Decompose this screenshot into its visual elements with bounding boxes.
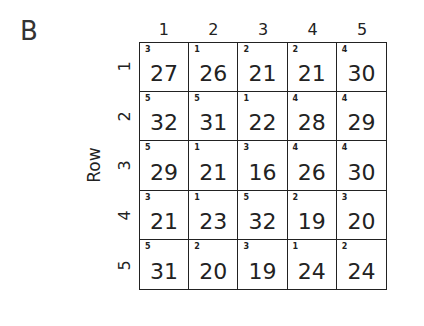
cell-value: 31	[189, 110, 237, 135]
grid-cell: 430	[337, 43, 386, 92]
grid-cell: 320	[337, 191, 386, 240]
grid-cell: 220	[189, 240, 238, 289]
cell-value: 21	[189, 160, 237, 185]
grid-cell: 531	[140, 240, 189, 289]
cell-value: 28	[288, 110, 336, 135]
grid-cell: 532	[238, 191, 287, 240]
cell-value: 32	[140, 110, 188, 135]
cell-value: 32	[238, 209, 286, 234]
cell-value: 30	[337, 160, 386, 185]
cell-small-label: 4	[342, 45, 348, 54]
row-header: 3	[112, 141, 136, 191]
cell-value: 31	[140, 259, 188, 284]
cell-value: 30	[337, 61, 386, 86]
row-header: 5	[112, 240, 136, 290]
cell-value: 24	[337, 259, 386, 284]
row-header: 1	[112, 42, 136, 92]
cell-small-label: 5	[243, 193, 249, 202]
grid-cell: 426	[288, 141, 337, 190]
grid-cell: 124	[288, 240, 337, 289]
cell-small-label: 2	[293, 193, 299, 202]
cell-value: 20	[337, 209, 386, 234]
cell-small-label: 1	[293, 242, 299, 251]
cell-value: 21	[140, 209, 188, 234]
cell-small-label: 3	[145, 45, 151, 54]
cell-small-label: 5	[145, 94, 151, 103]
cell-value: 22	[238, 110, 286, 135]
grid-cell: 428	[288, 92, 337, 141]
row-header-text: 1	[115, 62, 134, 72]
cell-small-label: 5	[145, 143, 151, 152]
cell-value: 21	[288, 61, 336, 86]
grid-cell: 531	[189, 92, 238, 141]
row-header: 2	[112, 92, 136, 142]
grid-cell: 221	[238, 43, 287, 92]
cell-small-label: 1	[194, 143, 200, 152]
cell-small-label: 2	[194, 242, 200, 251]
grid-cell: 219	[288, 191, 337, 240]
column-header: 2	[189, 20, 239, 39]
cell-value: 16	[238, 160, 286, 185]
cell-small-label: 5	[145, 242, 151, 251]
row-header-text: 2	[115, 111, 134, 121]
cell-small-label: 4	[342, 143, 348, 152]
cell-value: 29	[337, 110, 386, 135]
cell-small-label: 2	[243, 45, 249, 54]
cell-small-label: 1	[194, 193, 200, 202]
grid-cell: 532	[140, 92, 189, 141]
cell-small-label: 2	[293, 45, 299, 54]
cell-small-label: 3	[342, 193, 348, 202]
cell-value: 24	[288, 259, 336, 284]
cell-value: 29	[140, 160, 188, 185]
grid-cell: 430	[337, 141, 386, 190]
cell-value: 19	[238, 259, 286, 284]
cell-small-label: 3	[145, 193, 151, 202]
cell-value: 21	[238, 61, 286, 86]
row-header-text: 4	[115, 211, 134, 221]
cell-value: 27	[140, 61, 188, 86]
cell-value: 26	[288, 160, 336, 185]
cell-value: 20	[189, 259, 237, 284]
cell-small-label: 3	[243, 242, 249, 251]
cell-small-label: 3	[243, 143, 249, 152]
row-header-text: 5	[115, 260, 134, 270]
cell-small-label: 1	[194, 45, 200, 54]
grid-cell: 316	[238, 141, 287, 190]
cell-small-label: 2	[342, 242, 348, 251]
cell-small-label: 1	[243, 94, 249, 103]
grid-cell: 121	[189, 141, 238, 190]
column-header: 1	[139, 20, 189, 39]
grid-cell: 321	[140, 191, 189, 240]
row-header-text: 3	[115, 161, 134, 171]
cell-value: 23	[189, 209, 237, 234]
grid-cell: 224	[337, 240, 386, 289]
cell-value: 26	[189, 61, 237, 86]
column-header: 4	[288, 20, 338, 39]
grid-cell: 221	[288, 43, 337, 92]
grid-cell: 319	[238, 240, 287, 289]
grid-cell: 429	[337, 92, 386, 141]
grid-cell: 122	[238, 92, 287, 141]
cell-small-label: 4	[293, 143, 299, 152]
grid-cell: 529	[140, 141, 189, 190]
column-header: 5	[337, 20, 387, 39]
data-grid: 3271262212214305325311224284295291213164…	[139, 42, 387, 290]
row-axis-label-text: Row	[84, 147, 104, 182]
grid-cell: 126	[189, 43, 238, 92]
column-header: 3	[238, 20, 288, 39]
cell-small-label: 5	[194, 94, 200, 103]
cell-value: 19	[288, 209, 336, 234]
cell-small-label: 4	[342, 94, 348, 103]
row-header: 4	[112, 191, 136, 241]
grid-cell: 123	[189, 191, 238, 240]
grid-cell: 327	[140, 43, 189, 92]
panel-label: B	[20, 16, 38, 46]
row-axis-label: Row	[74, 150, 114, 180]
cell-small-label: 4	[293, 94, 299, 103]
